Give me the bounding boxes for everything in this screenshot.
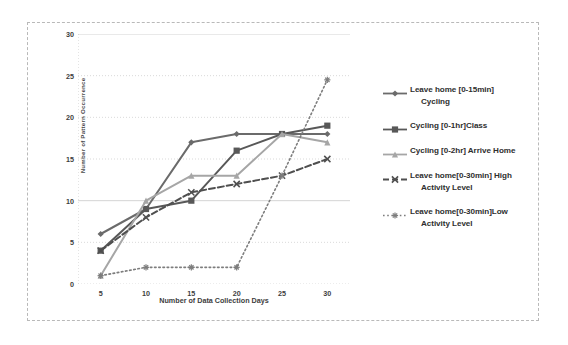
data-point-asterisk bbox=[392, 212, 398, 218]
x-axis-title: Number of Data Collection Days bbox=[78, 296, 350, 305]
legend-label-2: Cycling [0-2hr] Arrive Home bbox=[410, 145, 515, 157]
legend-label-1: Cycling [0-1hr]Class bbox=[410, 120, 487, 132]
data-point-asterisk bbox=[324, 77, 330, 83]
legend-marker-triangle-icon bbox=[382, 146, 408, 157]
chart-figure: Number of Pattern Occurrence 05101520253… bbox=[0, 0, 568, 345]
legend-label-3: Leave home[0-30min] HighActivity Level bbox=[410, 170, 512, 193]
plot-area: 05101520253051015202530 bbox=[78, 34, 350, 284]
data-point-diamond bbox=[324, 131, 330, 137]
legend-label-4: Leave home[0-30min]LowActivity Level bbox=[410, 206, 508, 229]
data-point-asterisk bbox=[234, 264, 240, 270]
legend-marker-x-icon bbox=[382, 171, 408, 182]
legend-item-4[interactable]: Leave home[0-30min]LowActivity Level bbox=[382, 206, 540, 229]
legend-item-1[interactable]: Cycling [0-1hr]Class bbox=[382, 120, 540, 132]
data-point-square bbox=[392, 126, 398, 132]
data-point-diamond bbox=[392, 90, 398, 96]
data-point-asterisk bbox=[143, 264, 149, 270]
series-line-3 bbox=[101, 159, 328, 251]
data-point-asterisk bbox=[188, 264, 194, 270]
plot-wrapper: Number of Pattern Occurrence 05101520253… bbox=[56, 34, 350, 284]
legend-item-3[interactable]: Leave home[0-30min] HighActivity Level bbox=[382, 170, 540, 193]
series-line-2 bbox=[101, 134, 328, 276]
legend-marker-diamond-icon bbox=[382, 85, 408, 96]
y-tick-label: 30 bbox=[66, 30, 74, 39]
y-tick-label: 25 bbox=[66, 71, 74, 80]
legend-label-0: Leave home [0-15min]Cycling bbox=[410, 84, 494, 107]
legend-item-2[interactable]: Cycling [0-2hr] Arrive Home bbox=[382, 145, 540, 157]
y-tick-label: 15 bbox=[66, 155, 74, 164]
data-point-diamond bbox=[234, 131, 240, 137]
legend-marker-square-icon bbox=[382, 121, 408, 132]
y-tick-label: 10 bbox=[66, 196, 74, 205]
legend-marker-asterisk-icon bbox=[382, 207, 408, 218]
data-point-square bbox=[324, 123, 330, 129]
series-line-4 bbox=[101, 80, 328, 276]
data-point-square bbox=[234, 148, 240, 154]
legend-item-0[interactable]: Leave home [0-15min]Cycling bbox=[382, 84, 540, 107]
data-point-square bbox=[188, 198, 194, 204]
chart-legend: Leave home [0-15min]CyclingCycling [0-1h… bbox=[382, 84, 540, 242]
y-tick-label: 20 bbox=[66, 113, 74, 122]
y-tick-label: 0 bbox=[70, 280, 74, 289]
data-point-square bbox=[143, 206, 149, 212]
data-point-x bbox=[143, 214, 149, 220]
y-tick-label: 5 bbox=[70, 238, 74, 247]
chart-svg bbox=[78, 34, 350, 284]
